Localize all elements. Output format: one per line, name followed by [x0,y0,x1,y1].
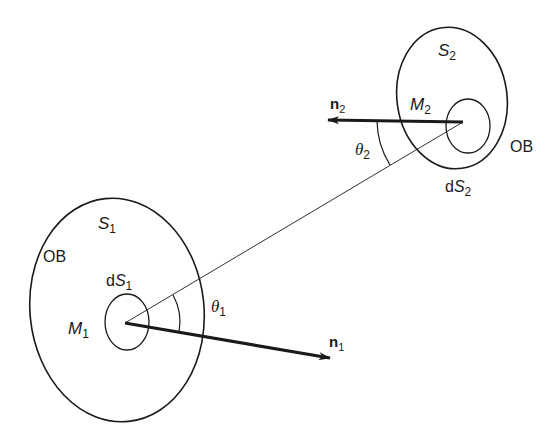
surface-2-outline [388,20,517,176]
label-n1: n1 [329,333,344,353]
surface-1-outline [19,190,215,431]
label-OB-2: OB [510,138,533,155]
normal-vector-n2 [328,120,463,122]
label-S2: S2 [438,41,456,63]
label-theta1: θ1 [211,297,226,319]
connecting-line-m1-m2 [125,122,463,323]
surface-1 [19,190,215,431]
label-theta2: θ2 [355,140,370,162]
normal-vector-n1 [125,323,330,358]
label-M2: M2 [410,95,431,117]
surface-2 [388,20,517,176]
label-dS1: dS1 [106,272,133,293]
angle-arc-theta2 [377,121,390,165]
label-M1: M1 [68,319,89,341]
angle-arc-theta1 [173,295,180,332]
label-dS2: dS2 [445,178,472,199]
surface-2-element-dS2 [446,99,490,153]
label-n2: n2 [330,95,345,115]
label-S1: S1 [98,214,116,236]
view-factor-diagram: S1 OB dS1 M1 θ1 n1 S2 M2 n2 θ2 OB dS2 [0,0,560,445]
label-OB-1: OB [43,248,66,265]
